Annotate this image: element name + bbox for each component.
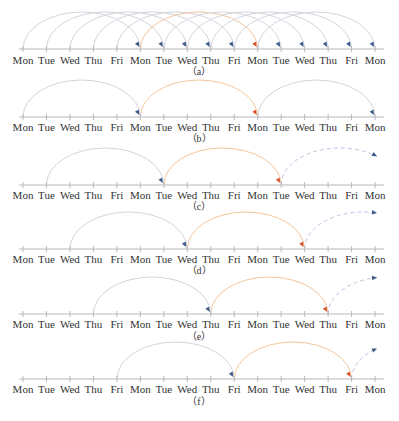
arc [117, 12, 234, 49]
tick-label: Mon [247, 253, 268, 265]
tick-label: Mon [13, 189, 34, 201]
tick-label: Thu [202, 318, 220, 330]
tick-label: Thu [319, 54, 337, 66]
tick-label: Tue [273, 253, 290, 265]
tick-label: Fri [228, 318, 241, 330]
tick-label: Thu [202, 189, 220, 201]
panel-caption: （a） [187, 66, 211, 77]
tick-label: Mon [130, 318, 151, 330]
highlight-arc [140, 80, 257, 117]
arc [258, 12, 375, 49]
tick-label: Fri [110, 54, 123, 66]
tick-label: Tue [38, 318, 55, 330]
tick-label: Mon [247, 121, 268, 133]
tick-label: Wed [295, 121, 315, 133]
tick-label: Wed [177, 189, 197, 201]
tick-label: Fri [228, 189, 241, 201]
panel-d: MonTueWedThuFriMonTueWedThuFriMonTueWedT… [13, 210, 386, 276]
tick-label: Wed [60, 318, 80, 330]
arrow-head-icon [372, 210, 378, 215]
tick-label: Fri [345, 253, 358, 265]
tick-label: Mon [130, 54, 151, 66]
tick-label: Fri [345, 189, 358, 201]
tick-label: Mon [13, 383, 34, 395]
tick-label: Fri [228, 54, 241, 66]
tick-label: Mon [365, 383, 386, 395]
tick-label: Thu [319, 253, 337, 265]
highlight-arc [164, 148, 281, 185]
tick-label: Tue [273, 189, 290, 201]
tick-label: Tue [273, 54, 290, 66]
tick-label: Mon [13, 318, 34, 330]
tick-label: Fri [110, 318, 123, 330]
highlight-arc [234, 342, 351, 379]
tick-label: Fri [110, 189, 123, 201]
tick-label: Fri [228, 383, 241, 395]
arc [46, 12, 163, 49]
panel-c: MonTueWedThuFriMonTueWedThuFriMonTueWedT… [13, 148, 386, 212]
panel-caption: （e） [187, 331, 211, 342]
tick-label: Wed [60, 383, 80, 395]
tick-label: Thu [85, 253, 103, 265]
tick-label: Fri [110, 253, 123, 265]
arc [93, 12, 210, 49]
panel-f: MonTueWedThuFriMonTueWedThuFriMonTueWedT… [13, 342, 386, 407]
tick-label: Wed [177, 383, 197, 395]
tick-label: Tue [155, 121, 172, 133]
tick-label: Wed [295, 383, 315, 395]
arc [93, 277, 210, 314]
panel-caption: （d） [187, 265, 212, 276]
tick-label: Thu [319, 318, 337, 330]
tick-label: Wed [177, 121, 197, 133]
arc [23, 12, 140, 49]
tick-label: Wed [295, 189, 315, 201]
tick-label: Mon [247, 54, 268, 66]
tick-label: Thu [85, 318, 103, 330]
highlight-arc [187, 212, 304, 249]
tick-label: Mon [365, 318, 386, 330]
tick-label: Tue [38, 54, 55, 66]
highlight-arc [140, 12, 257, 49]
dashed-projection-arc [281, 148, 377, 185]
panel-b: MonTueWedThuFriMonTueWedThuFriMonTueWedT… [13, 80, 386, 144]
arc [211, 12, 328, 49]
tick-label: Fri [110, 121, 123, 133]
tick-label: Tue [273, 318, 290, 330]
tick-label: Fri [110, 383, 123, 395]
tick-label: Mon [365, 54, 386, 66]
tick-label: Fri [345, 318, 358, 330]
tick-label: Thu [202, 54, 220, 66]
tick-label: Wed [60, 253, 80, 265]
arc [46, 148, 163, 185]
tick-label: Tue [155, 189, 172, 201]
tick-label: Thu [85, 121, 103, 133]
tick-label: Tue [273, 383, 290, 395]
tick-label: Mon [247, 383, 268, 395]
tick-label: Wed [295, 318, 315, 330]
arc [164, 12, 281, 49]
tick-label: Mon [365, 189, 386, 201]
arrow-head-icon [372, 346, 378, 352]
tick-label: Mon [247, 318, 268, 330]
tick-label: Mon [13, 54, 34, 66]
tick-label: Mon [365, 253, 386, 265]
tick-label: Wed [177, 54, 197, 66]
arc [187, 12, 304, 49]
tick-label: Thu [319, 121, 337, 133]
tick-label: Wed [177, 253, 197, 265]
arc [70, 12, 187, 49]
tick-label: Fri [228, 121, 241, 133]
tick-label: Fri [228, 253, 241, 265]
tick-label: Mon [13, 121, 34, 133]
highlight-arc [211, 277, 328, 314]
arc [258, 80, 375, 117]
arc [234, 12, 351, 49]
arc [23, 80, 140, 117]
tick-label: Tue [155, 253, 172, 265]
tick-label: Tue [155, 318, 172, 330]
tick-label: Wed [60, 54, 80, 66]
tick-label: Tue [38, 121, 55, 133]
tick-label: Thu [202, 383, 220, 395]
tick-label: Thu [319, 383, 337, 395]
tick-label: Tue [155, 54, 172, 66]
